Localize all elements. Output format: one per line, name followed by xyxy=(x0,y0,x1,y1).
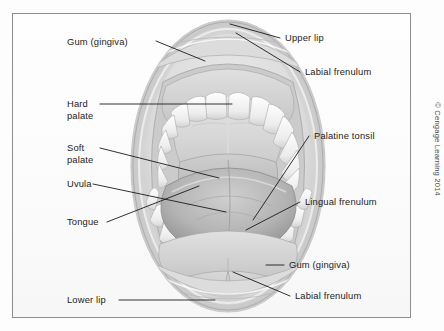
label-lower-lip: Lower lip xyxy=(67,294,106,306)
label-palatine-tonsil: Palatine tonsil xyxy=(314,130,375,142)
label-hard-palate-line1: Hard xyxy=(67,98,88,110)
label-labial-frenulum-upper: Labial frenulum xyxy=(305,66,371,78)
label-gum-gingiva-lower: Gum (gingiva) xyxy=(289,259,350,271)
label-soft-palate-line2: palate xyxy=(67,154,93,166)
label-tongue: Tongue xyxy=(67,216,99,228)
label-upper-lip: Upper lip xyxy=(285,32,324,44)
label-hard-palate-line2: palate xyxy=(67,110,93,122)
label-gum-gingiva-upper: Gum (gingiva) xyxy=(67,36,128,48)
label-soft-palate-line1: Soft xyxy=(67,142,84,154)
label-uvula: Uvula xyxy=(67,178,92,190)
label-lingual-frenulum: Lingual frenulum xyxy=(305,196,377,208)
copyright-notice: © Cengage Learning 2014 xyxy=(433,102,442,196)
anatomy-figure: Gum (gingiva) Hard palate Soft palate Uv… xyxy=(0,0,444,331)
label-labial-frenulum-lower: Labial frenulum xyxy=(295,290,361,302)
